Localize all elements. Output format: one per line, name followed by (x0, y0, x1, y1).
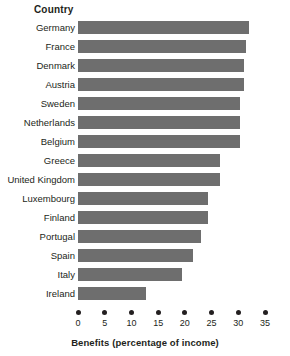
bar-row: Germany (0, 20, 290, 39)
bar-track (78, 192, 208, 205)
axis-tick-label: 0 (64, 318, 92, 328)
bar-track (78, 268, 182, 281)
bar-fill (78, 97, 240, 110)
bar-row: Austria (0, 77, 290, 96)
bar-row: Italy (0, 267, 290, 286)
bar-category-label: Ireland (0, 288, 75, 299)
chart-header: Country (0, 4, 290, 18)
bar-track (78, 173, 220, 186)
bar-row: Spain (0, 248, 290, 267)
bar-category-label: Spain (0, 250, 75, 261)
bar-fill (78, 154, 220, 167)
bar-track (78, 97, 240, 110)
category-axis-title: Country (34, 4, 73, 15)
bar-row: Luxembourg (0, 191, 290, 210)
bar-row: Ireland (0, 286, 290, 305)
bar-row: Belgium (0, 134, 290, 153)
axis-tick-dot-icon (263, 310, 268, 315)
bar-fill (78, 230, 201, 243)
plot-area: GermanyFranceDenmarkAustriaSwedenNetherl… (0, 20, 290, 305)
bar-category-label: Finland (0, 212, 75, 223)
bar-category-label: Denmark (0, 60, 75, 71)
bar-track (78, 154, 220, 167)
bar-category-label: France (0, 41, 75, 52)
bar-track (78, 40, 246, 53)
axis-tick-dot-icon (156, 310, 161, 315)
bar-row: Denmark (0, 58, 290, 77)
bar-category-label: Italy (0, 269, 75, 280)
bar-fill (78, 135, 240, 148)
bar-fill (78, 21, 249, 34)
bar-category-label: Germany (0, 22, 75, 33)
bar-category-label: Sweden (0, 98, 75, 109)
axis-tick-label: 10 (117, 318, 145, 328)
value-axis-title: Benefits (percentage of income) (0, 337, 290, 348)
bar-row: Greece (0, 153, 290, 172)
axis-tick-dot-icon (129, 310, 134, 315)
axis-tick-dot-icon (209, 310, 214, 315)
axis-tick-label: 30 (224, 318, 252, 328)
bar-fill (78, 78, 244, 91)
bar-category-label: United Kingdom (0, 174, 75, 185)
axis-tick-dot-icon (76, 310, 81, 315)
bar-fill (78, 116, 240, 129)
bar-row: Finland (0, 210, 290, 229)
axis-tick-label: 25 (198, 318, 226, 328)
bar-fill (78, 249, 193, 262)
bar-track (78, 230, 201, 243)
axis-tick-dot-icon (236, 310, 241, 315)
bar-row: France (0, 39, 290, 58)
axis-tick-dot-icon (182, 310, 187, 315)
bar-track (78, 116, 240, 129)
bar-track (78, 21, 249, 34)
bar-fill (78, 173, 220, 186)
axis-tick-label: 35 (251, 318, 279, 328)
bar-row: Sweden (0, 96, 290, 115)
axis-tick-label: 20 (171, 318, 199, 328)
bar-fill (78, 59, 244, 72)
bar-track (78, 249, 193, 262)
bar-track (78, 211, 208, 224)
bar-fill (78, 211, 208, 224)
bar-fill (78, 192, 208, 205)
bar-fill (78, 40, 246, 53)
axis-tick-label: 5 (91, 318, 119, 328)
bar-row: Netherlands (0, 115, 290, 134)
bar-category-label: Netherlands (0, 117, 75, 128)
bar-category-label: Greece (0, 155, 75, 166)
bar-row: United Kingdom (0, 172, 290, 191)
value-axis: 05101520253035 (0, 310, 290, 334)
bar-category-label: Austria (0, 79, 75, 90)
bar-fill (78, 287, 146, 300)
bar-category-label: Belgium (0, 136, 75, 147)
bar-track (78, 59, 244, 72)
bar-chart: Country GermanyFranceDenmarkAustriaSwede… (0, 0, 290, 356)
axis-tick-dot-icon (102, 310, 107, 315)
bar-track (78, 287, 146, 300)
axis-tick-label: 15 (144, 318, 172, 328)
bar-track (78, 78, 244, 91)
bar-track (78, 135, 240, 148)
bar-row: Portugal (0, 229, 290, 248)
bar-category-label: Luxembourg (0, 193, 75, 204)
bar-fill (78, 268, 182, 281)
bar-category-label: Portugal (0, 231, 75, 242)
